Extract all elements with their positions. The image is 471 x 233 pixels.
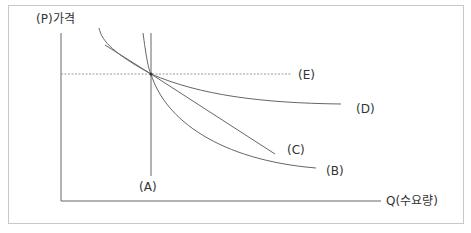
x-axis-label: Q(수요량) <box>386 194 438 208</box>
label-c: (C) <box>287 143 305 157</box>
equilibrium-point <box>149 72 152 75</box>
label-a: (A) <box>139 180 157 194</box>
y-axis-label: (P)가격 <box>36 12 75 26</box>
label-d: (D) <box>356 102 375 116</box>
label-b: (B) <box>326 164 344 178</box>
label-e: (E) <box>298 68 315 82</box>
curve-d <box>99 28 341 104</box>
